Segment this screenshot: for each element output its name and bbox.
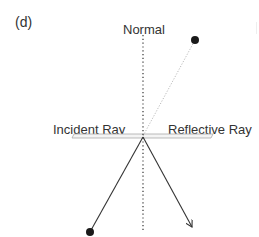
reflection-diagram: [0, 0, 259, 237]
reflected-ray: [143, 137, 192, 227]
virtual-source-dot: [191, 36, 199, 44]
incident-source-dot: [86, 228, 94, 236]
virtual-ray: [143, 40, 195, 136]
incident-ray: [90, 137, 143, 232]
